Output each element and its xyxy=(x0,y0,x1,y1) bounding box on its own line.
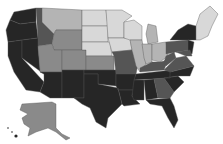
state-WY xyxy=(52,30,82,50)
state-FL xyxy=(146,98,178,128)
state-HI xyxy=(7,127,17,137)
new-england xyxy=(196,6,218,40)
state-IA xyxy=(108,38,132,52)
state-MS xyxy=(132,80,144,100)
state-KS xyxy=(86,56,114,70)
state-AK xyxy=(20,102,70,140)
state-AZ xyxy=(40,72,62,98)
us-choropleth-map xyxy=(0,0,223,144)
state-WI xyxy=(124,20,142,40)
state-CO xyxy=(62,50,86,70)
state-MI xyxy=(146,24,158,44)
state-NE xyxy=(82,42,112,56)
state-SD xyxy=(82,26,108,42)
state-NM xyxy=(62,70,84,98)
state-ND xyxy=(82,10,108,26)
state-NY xyxy=(170,24,196,40)
